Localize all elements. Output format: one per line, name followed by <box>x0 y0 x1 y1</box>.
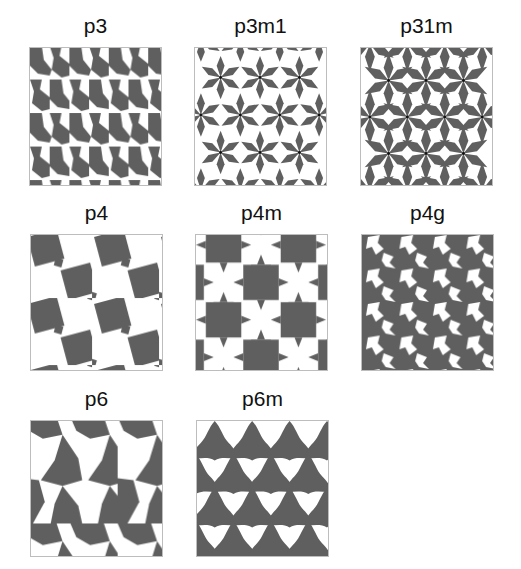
tiling-p3 <box>29 47 162 186</box>
tiling-p4 <box>30 234 163 371</box>
panel-p4m: p4m <box>195 234 328 371</box>
panel-title: p3 <box>29 14 162 38</box>
p4-pattern-graphic <box>31 235 162 370</box>
panel-p6m: p6m <box>196 420 329 557</box>
panel-title: p4g <box>361 201 494 225</box>
panel-p31m: p31m <box>360 47 493 186</box>
p6m-pattern-graphic <box>197 421 328 556</box>
tiling-p6 <box>30 420 163 557</box>
p4m-pattern-graphic <box>196 235 327 370</box>
tiling-p4g <box>361 234 494 371</box>
tiling-p4m <box>195 234 328 371</box>
p4g-pattern-graphic <box>362 235 493 370</box>
panel-p4g: p4g <box>361 234 494 371</box>
p3-pattern-graphic <box>30 48 161 185</box>
panel-title: p6m <box>196 387 329 411</box>
panel-p6: p6 <box>30 420 163 557</box>
p31m-pattern-graphic <box>361 48 492 185</box>
p3m1-pattern-graphic <box>195 48 326 185</box>
panel-p3m1: p3m1 <box>194 47 327 186</box>
panel-title: p6 <box>30 387 163 411</box>
panel-title: p31m <box>360 14 493 38</box>
panel-p3: p3 <box>29 47 162 186</box>
panel-title: p4m <box>195 201 328 225</box>
p6-pattern-graphic <box>31 421 162 556</box>
tiling-p3m1 <box>194 47 327 186</box>
panel-p4: p4 <box>30 234 163 371</box>
tiling-p6m <box>196 420 329 557</box>
tiling-p31m <box>360 47 493 186</box>
panel-title: p4 <box>30 201 163 225</box>
panel-title: p3m1 <box>194 14 327 38</box>
